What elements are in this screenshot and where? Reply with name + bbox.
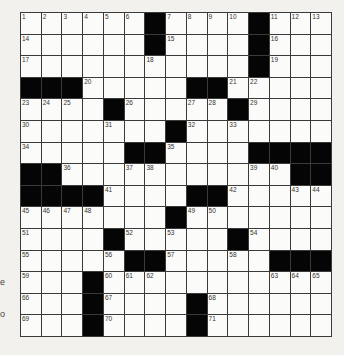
grid-cell[interactable]: 12 bbox=[291, 13, 311, 34]
grid-cell[interactable] bbox=[166, 99, 186, 120]
grid-cell[interactable] bbox=[62, 315, 82, 336]
grid-cell[interactable] bbox=[42, 143, 62, 164]
grid-cell[interactable] bbox=[166, 272, 186, 293]
grid-cell[interactable] bbox=[311, 315, 331, 336]
grid-cell[interactable]: 33 bbox=[228, 121, 248, 142]
grid-cell[interactable] bbox=[228, 315, 248, 336]
grid-cell[interactable]: 51 bbox=[21, 229, 41, 250]
grid-cell[interactable] bbox=[62, 251, 82, 272]
grid-cell[interactable] bbox=[311, 99, 331, 120]
grid-cell[interactable]: 11 bbox=[270, 13, 290, 34]
grid-cell[interactable] bbox=[125, 56, 145, 77]
grid-cell[interactable] bbox=[291, 121, 311, 142]
grid-cell[interactable] bbox=[42, 272, 62, 293]
grid-cell[interactable] bbox=[125, 207, 145, 228]
grid-cell[interactable]: 35 bbox=[166, 143, 186, 164]
grid-cell[interactable]: 27 bbox=[187, 99, 207, 120]
grid-cell[interactable] bbox=[125, 121, 145, 142]
grid-cell[interactable] bbox=[83, 251, 103, 272]
grid-cell[interactable]: 48 bbox=[83, 207, 103, 228]
grid-cell[interactable] bbox=[83, 164, 103, 185]
grid-cell[interactable]: 62 bbox=[145, 272, 165, 293]
grid-cell[interactable] bbox=[228, 143, 248, 164]
grid-cell[interactable] bbox=[270, 186, 290, 207]
grid-cell[interactable] bbox=[208, 121, 228, 142]
grid-cell[interactable] bbox=[187, 35, 207, 56]
grid-cell[interactable]: 6 bbox=[125, 13, 145, 34]
grid-cell[interactable] bbox=[270, 294, 290, 315]
grid-cell[interactable] bbox=[228, 272, 248, 293]
grid-cell[interactable] bbox=[270, 315, 290, 336]
grid-cell[interactable] bbox=[42, 229, 62, 250]
grid-cell[interactable] bbox=[42, 121, 62, 142]
grid-cell[interactable] bbox=[249, 251, 269, 272]
grid-cell[interactable]: 69 bbox=[21, 315, 41, 336]
grid-cell[interactable] bbox=[208, 272, 228, 293]
grid-cell[interactable]: 37 bbox=[125, 164, 145, 185]
grid-cell[interactable]: 65 bbox=[311, 272, 331, 293]
grid-cell[interactable]: 28 bbox=[208, 99, 228, 120]
grid-cell[interactable]: 5 bbox=[104, 13, 124, 34]
grid-cell[interactable] bbox=[208, 143, 228, 164]
grid-cell[interactable] bbox=[104, 56, 124, 77]
grid-cell[interactable] bbox=[311, 121, 331, 142]
grid-cell[interactable] bbox=[208, 35, 228, 56]
grid-cell[interactable] bbox=[311, 35, 331, 56]
grid-cell[interactable]: 17 bbox=[21, 56, 41, 77]
grid-cell[interactable] bbox=[187, 272, 207, 293]
grid-cell[interactable] bbox=[187, 56, 207, 77]
grid-cell[interactable]: 61 bbox=[125, 272, 145, 293]
grid-cell[interactable]: 36 bbox=[62, 164, 82, 185]
grid-cell[interactable]: 25 bbox=[62, 99, 82, 120]
grid-cell[interactable]: 15 bbox=[166, 35, 186, 56]
grid-cell[interactable]: 18 bbox=[145, 56, 165, 77]
grid-cell[interactable]: 34 bbox=[21, 143, 41, 164]
grid-cell[interactable] bbox=[83, 143, 103, 164]
grid-cell[interactable]: 42 bbox=[228, 186, 248, 207]
grid-cell[interactable]: 43 bbox=[291, 186, 311, 207]
grid-cell[interactable] bbox=[83, 35, 103, 56]
grid-cell[interactable]: 38 bbox=[145, 164, 165, 185]
grid-cell[interactable] bbox=[145, 315, 165, 336]
grid-cell[interactable] bbox=[42, 294, 62, 315]
grid-cell[interactable] bbox=[187, 143, 207, 164]
grid-cell[interactable]: 53 bbox=[166, 229, 186, 250]
grid-cell[interactable] bbox=[125, 294, 145, 315]
grid-cell[interactable]: 58 bbox=[228, 251, 248, 272]
grid-cell[interactable] bbox=[249, 294, 269, 315]
grid-cell[interactable] bbox=[249, 315, 269, 336]
grid-cell[interactable]: 40 bbox=[270, 164, 290, 185]
grid-cell[interactable]: 63 bbox=[270, 272, 290, 293]
grid-cell[interactable]: 50 bbox=[208, 207, 228, 228]
grid-cell[interactable] bbox=[104, 143, 124, 164]
grid-cell[interactable] bbox=[291, 229, 311, 250]
grid-cell[interactable] bbox=[62, 272, 82, 293]
grid-cell[interactable] bbox=[228, 164, 248, 185]
grid-cell[interactable] bbox=[125, 186, 145, 207]
grid-cell[interactable] bbox=[145, 78, 165, 99]
grid-cell[interactable] bbox=[145, 99, 165, 120]
grid-cell[interactable]: 32 bbox=[187, 121, 207, 142]
grid-cell[interactable] bbox=[83, 229, 103, 250]
grid-cell[interactable] bbox=[42, 56, 62, 77]
grid-cell[interactable] bbox=[291, 294, 311, 315]
grid-cell[interactable] bbox=[291, 56, 311, 77]
grid-cell[interactable]: 41 bbox=[104, 186, 124, 207]
grid-cell[interactable] bbox=[145, 207, 165, 228]
grid-cell[interactable]: 10 bbox=[228, 13, 248, 34]
grid-cell[interactable] bbox=[228, 294, 248, 315]
grid-cell[interactable] bbox=[125, 315, 145, 336]
grid-cell[interactable] bbox=[83, 56, 103, 77]
grid-cell[interactable] bbox=[83, 99, 103, 120]
grid-cell[interactable]: 47 bbox=[62, 207, 82, 228]
grid-cell[interactable]: 44 bbox=[311, 186, 331, 207]
grid-cell[interactable]: 60 bbox=[104, 272, 124, 293]
grid-cell[interactable]: 46 bbox=[42, 207, 62, 228]
grid-cell[interactable] bbox=[249, 186, 269, 207]
grid-cell[interactable] bbox=[311, 78, 331, 99]
grid-cell[interactable]: 57 bbox=[166, 251, 186, 272]
grid-cell[interactable] bbox=[125, 78, 145, 99]
grid-cell[interactable]: 71 bbox=[208, 315, 228, 336]
grid-cell[interactable] bbox=[270, 207, 290, 228]
grid-cell[interactable] bbox=[166, 294, 186, 315]
